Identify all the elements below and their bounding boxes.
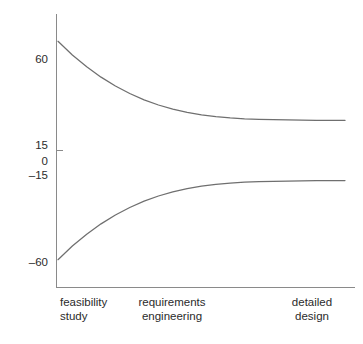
y-axis-label-15: 15	[12, 140, 48, 152]
x-axis-label-requirements-engineering: requirements engineering	[124, 295, 220, 323]
upper-bound-curve	[58, 41, 345, 120]
x-label-line1: detailed	[272, 295, 352, 309]
x-axis-label-detailed-design: detailed design	[272, 295, 352, 323]
x-label-line2: design	[272, 309, 352, 323]
y-axis-label-minus-15: –15	[8, 170, 48, 182]
lower-bound-curve	[58, 181, 345, 260]
chart-figure: 60 15 0 –15 –60 feasibility study requir…	[0, 0, 363, 344]
x-label-line1: requirements	[124, 295, 220, 309]
cone-of-uncertainty-chart	[0, 0, 363, 344]
y-axis-label-0: 0	[12, 156, 48, 168]
y-axis-label-minus-60: –60	[8, 257, 48, 269]
x-label-line2: engineering	[124, 309, 220, 323]
y-axis-label-60: 60	[12, 54, 48, 66]
